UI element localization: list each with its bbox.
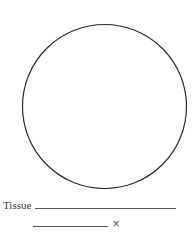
magnification-input-line[interactable]: [33, 226, 108, 227]
tissue-input-line[interactable]: [35, 208, 176, 209]
tissue-label: Tissue: [3, 199, 31, 211]
field-circle-outline: [23, 25, 187, 189]
multiply-symbol: ×: [112, 219, 120, 229]
